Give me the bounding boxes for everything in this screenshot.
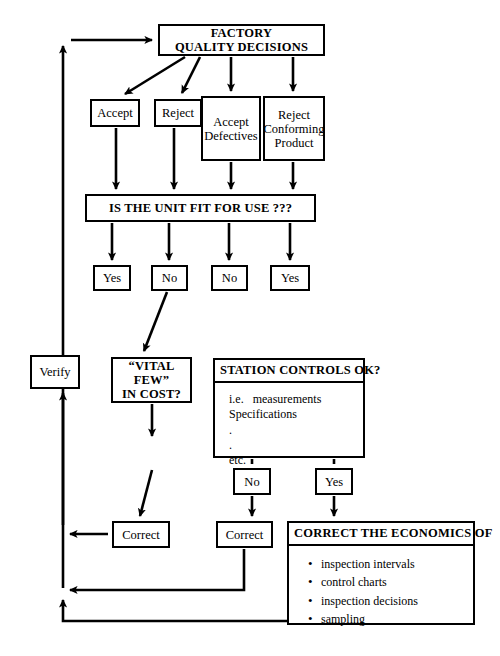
station-controls-line-1: i.e. measurements [229, 392, 353, 407]
economics-bullet-1: inspection intervals [321, 557, 463, 572]
answer-yes-2-label: Yes [281, 271, 299, 285]
node-is-the-unit-fit-for-use[interactable]: IS THE UNIT FIT FOR USE ??? [85, 194, 316, 222]
node-reject-conforming-line-3: Product [275, 136, 314, 150]
flowchart-page: FACTORY QUALITY DECISIONS Accept Reject … [0, 0, 500, 656]
node-accept-defectives-line-2: Defectives [204, 129, 257, 143]
node-answer-no-2[interactable]: No [211, 265, 248, 291]
node-answer-no-1[interactable]: No [151, 265, 188, 291]
answer-no-1-label: No [162, 271, 177, 285]
station-answer-yes-label: Yes [325, 475, 343, 489]
node-station-controls-ok[interactable]: STATION CONTROLS OK? i.e. measurements S… [213, 358, 365, 458]
node-accept-label: Accept [97, 106, 132, 120]
station-controls-header: STATION CONTROLS OK? [215, 360, 363, 383]
economics-body: inspection intervals control charts insp… [289, 546, 473, 634]
correct-left-label: Correct [122, 528, 159, 542]
node-vital-few-in-cost[interactable]: “VITAL FEW” IN COST? [111, 357, 192, 403]
node-factory-quality-decisions[interactable]: FACTORY QUALITY DECISIONS [158, 24, 325, 56]
correct-right-label: Correct [226, 528, 263, 542]
connector-correct-right-to-trunk [70, 549, 244, 590]
node-reject-conforming-line-1: Reject [278, 108, 310, 122]
station-controls-body: i.e. measurements Specifications . . etc… [215, 383, 363, 473]
answer-yes-1-label: Yes [103, 271, 121, 285]
station-controls-line-5: etc. [229, 453, 353, 468]
answer-no-2-label: No [222, 271, 237, 285]
connector-title-to-reject [182, 57, 200, 93]
station-controls-line-3: . [229, 423, 353, 438]
economics-bullet-4: sampling [321, 612, 463, 627]
connector-group-fit-answers [112, 223, 290, 260]
node-station-answer-yes[interactable]: Yes [315, 468, 353, 495]
node-reject-label: Reject [162, 106, 194, 120]
connector-economics-to-trunk [63, 600, 287, 621]
station-controls-line-2: Specifications [229, 407, 353, 422]
station-controls-line-4: . [229, 438, 353, 453]
vital-few-line-1: “VITAL FEW” [113, 359, 190, 387]
node-accept-defectives[interactable]: Accept Defectives [201, 96, 261, 161]
connector-title-to-accept [125, 57, 185, 94]
node-correct-right[interactable]: Correct [216, 521, 273, 548]
node-reject[interactable]: Reject [154, 99, 202, 127]
verify-label: Verify [39, 365, 70, 379]
node-reject-conforming-product[interactable]: Reject Conforming Product [263, 96, 325, 161]
economics-bullet-3: inspection decisions [321, 594, 463, 609]
connector-no-to-vital-few [144, 292, 167, 351]
title-line-1: FACTORY [211, 26, 273, 40]
connector-yes-to-correct-left [140, 470, 152, 516]
node-station-answer-no[interactable]: No [233, 468, 271, 495]
node-accept[interactable]: Accept [90, 99, 140, 127]
economics-header: CORRECT THE ECONOMICS OF [289, 523, 473, 546]
node-answer-yes-2[interactable]: Yes [270, 265, 310, 291]
node-correct-left[interactable]: Correct [112, 521, 170, 548]
station-answer-no-label: No [244, 475, 259, 489]
vital-few-line-2: IN COST? [122, 387, 181, 401]
economics-bullet-list: inspection intervals control charts insp… [303, 557, 463, 627]
economics-bullet-2: control charts [321, 575, 463, 590]
node-accept-defectives-line-1: Accept [213, 115, 248, 129]
node-reject-conforming-line-2: Conforming [263, 122, 324, 136]
node-answer-yes-1[interactable]: Yes [93, 265, 131, 291]
fit-for-use-label: IS THE UNIT FIT FOR USE ??? [109, 201, 292, 215]
node-correct-the-economics-of[interactable]: CORRECT THE ECONOMICS OF inspection inte… [287, 521, 475, 625]
node-verify[interactable]: Verify [30, 355, 80, 389]
title-line-2: QUALITY DECISIONS [175, 40, 308, 54]
